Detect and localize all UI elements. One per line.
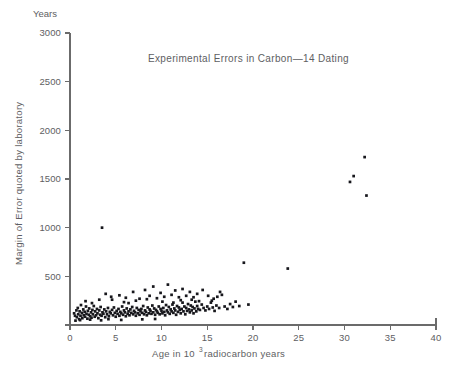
x-tick-label: 0 (67, 332, 72, 343)
data-point (125, 307, 128, 310)
x-tick-label: 25 (293, 332, 304, 343)
y-tick-label: 2500 (39, 76, 61, 87)
data-point (89, 318, 92, 321)
data-point (182, 310, 185, 313)
data-point (131, 306, 134, 309)
data-point (111, 298, 114, 301)
data-point (152, 311, 155, 314)
data-point (172, 301, 175, 304)
data-point (238, 305, 241, 308)
data-point (98, 309, 101, 312)
data-point (206, 305, 209, 308)
data-point (108, 315, 111, 318)
y-tick-label: 500 (45, 271, 61, 282)
x-tick-label: 5 (113, 332, 118, 343)
data-point (179, 312, 182, 315)
data-point (143, 313, 146, 316)
x-axis-title-main: Age in 10 (152, 348, 195, 359)
data-point (204, 309, 207, 312)
axis-tick-labels-group: 500100015002000250030000510152025303540 (39, 27, 441, 343)
data-point (194, 300, 197, 303)
data-point (79, 319, 82, 322)
data-point (149, 310, 152, 313)
x-axis-title: Age in 10 3 radiocarbon years (152, 346, 285, 359)
data-point (158, 313, 161, 316)
data-point (174, 309, 177, 312)
data-point (193, 307, 196, 310)
data-point (218, 307, 221, 310)
data-point (192, 312, 195, 315)
data-point (138, 297, 141, 300)
data-point (198, 300, 201, 303)
data-point (172, 311, 175, 314)
data-point (88, 307, 91, 310)
data-point (129, 308, 132, 311)
svg-text:Margin of Error quoted by labo: Margin of Error quoted by laboratory (13, 102, 24, 265)
data-point (141, 318, 144, 321)
data-point (189, 291, 192, 294)
data-point (211, 306, 214, 309)
data-point (216, 295, 219, 298)
data-point (363, 156, 366, 159)
data-point (123, 301, 126, 304)
data-point (146, 298, 149, 301)
data-point (175, 313, 178, 316)
data-point (135, 314, 138, 317)
data-point (159, 292, 162, 295)
data-point (154, 313, 157, 316)
data-point (196, 293, 199, 296)
data-point (144, 289, 147, 292)
x-tick-label: 35 (385, 332, 396, 343)
data-point (134, 311, 137, 314)
data-point (122, 313, 125, 316)
data-point (107, 318, 110, 321)
data-point (145, 311, 148, 314)
data-point (349, 181, 352, 184)
data-point (178, 306, 181, 309)
data-point (118, 314, 121, 317)
data-point (142, 305, 145, 308)
data-point (135, 299, 138, 302)
chart-title: Experimental Errors in Carbon—14 Dating (148, 53, 349, 64)
data-point (226, 308, 229, 311)
data-point (111, 309, 114, 312)
data-point (76, 307, 79, 310)
data-point (73, 312, 76, 315)
data-point (234, 300, 237, 303)
data-point (208, 308, 211, 311)
data-points-group (73, 156, 368, 322)
data-point (187, 303, 190, 306)
data-point (213, 310, 216, 313)
data-point (107, 307, 110, 310)
data-point (184, 313, 187, 316)
data-point (113, 306, 116, 309)
y-tick-label: 1000 (39, 222, 61, 233)
data-point (164, 314, 167, 317)
data-point (132, 291, 135, 294)
data-point (178, 296, 181, 299)
data-point (81, 311, 84, 314)
y-axis-title: Margin of Error quoted by laboratory (13, 102, 24, 265)
data-point (247, 303, 250, 306)
data-point (92, 305, 95, 308)
data-point (167, 283, 170, 286)
data-point (156, 297, 159, 300)
data-point (188, 308, 191, 311)
axis-ticks-group (65, 33, 436, 330)
data-point (168, 312, 171, 315)
x-tick-label: 40 (431, 332, 442, 343)
data-point (181, 288, 184, 291)
data-point (207, 294, 210, 297)
data-point (82, 308, 85, 311)
data-point (85, 305, 88, 308)
data-point (219, 291, 222, 294)
data-point (86, 317, 89, 320)
data-point (112, 314, 115, 317)
data-point (97, 317, 100, 320)
data-point (161, 300, 164, 303)
data-point (365, 194, 368, 197)
data-point (127, 302, 130, 305)
data-point (124, 311, 127, 314)
data-point (120, 319, 123, 322)
data-point (165, 304, 168, 307)
